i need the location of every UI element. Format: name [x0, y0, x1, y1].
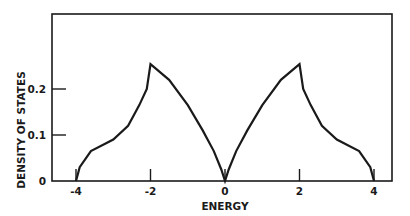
x-tick-label: 4	[370, 185, 377, 197]
y-axis-ticks: 00.10.2	[27, 83, 66, 187]
y-tick-label: 0.2	[27, 83, 46, 95]
x-tick-label: 0	[221, 185, 228, 197]
y-tick-label: 0.1	[27, 129, 46, 141]
x-tick-label: -4	[70, 185, 82, 197]
y-axis-label: DENSITY OF STATES	[15, 71, 27, 188]
dos-chart: 00.10.2 -4-2024 ENERGY DENSITY OF STATES	[0, 0, 410, 216]
x-tick-label: 2	[296, 185, 303, 197]
y-tick-label: 0	[39, 175, 46, 187]
x-tick-label: -2	[145, 185, 157, 197]
x-axis-label: ENERGY	[201, 200, 249, 212]
dos-curve	[76, 64, 374, 181]
plot-frame	[52, 14, 392, 181]
x-axis-ticks: -4-2024	[70, 169, 377, 197]
